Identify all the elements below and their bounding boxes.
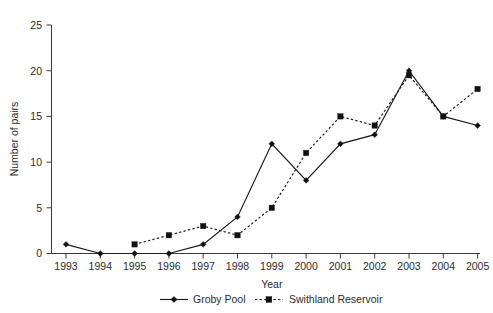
- y-tick-label-25: 25: [30, 19, 42, 31]
- data-point: [235, 233, 240, 238]
- y-tick-label-10: 10: [30, 156, 42, 168]
- y-tick-label-15: 15: [30, 110, 42, 122]
- data-point: [269, 205, 274, 210]
- x-tick-label-1997: 1997: [192, 260, 216, 272]
- legend-square-marker: [266, 297, 272, 303]
- x-tick-label-1995: 1995: [123, 260, 147, 272]
- x-tick-label-1994: 1994: [89, 260, 113, 272]
- legend-label-groby-pool: Groby Pool: [193, 293, 246, 305]
- x-tick-label-2004: 2004: [432, 260, 456, 272]
- x-tick-label-1993: 1993: [54, 260, 78, 272]
- chart-page: 25 20 15 10 5 0 Number of pairs: [0, 0, 493, 313]
- line-chart: 25 20 15 10 5 0 Number of pairs: [0, 0, 493, 313]
- x-tick-label-2001: 2001: [329, 260, 353, 272]
- data-point: [166, 233, 171, 238]
- data-point: [441, 114, 446, 119]
- legend-label-swithland-reservoir: Swithland Reservoir: [289, 293, 383, 305]
- x-tick-label-1999: 1999: [260, 260, 284, 272]
- data-point: [303, 150, 308, 155]
- data-point: [406, 73, 411, 78]
- x-tick-label-2002: 2002: [363, 260, 387, 272]
- y-tick-label-0: 0: [36, 247, 42, 259]
- x-axis-title: Year: [261, 278, 283, 290]
- data-point: [132, 242, 137, 247]
- y-axis-title: Number of pairs: [8, 102, 20, 177]
- x-tick-label-1998: 1998: [226, 260, 250, 272]
- data-point: [475, 86, 480, 91]
- y-tick-label-20: 20: [30, 65, 42, 77]
- x-tick-label-2005: 2005: [466, 260, 490, 272]
- data-point: [338, 114, 343, 119]
- x-tick-label-2003: 2003: [397, 260, 421, 272]
- y-tick-label-5: 5: [36, 202, 42, 214]
- x-tick-label-1996: 1996: [157, 260, 181, 272]
- data-point: [201, 223, 206, 228]
- x-tick-label-2000: 2000: [294, 260, 318, 272]
- data-point: [372, 123, 377, 128]
